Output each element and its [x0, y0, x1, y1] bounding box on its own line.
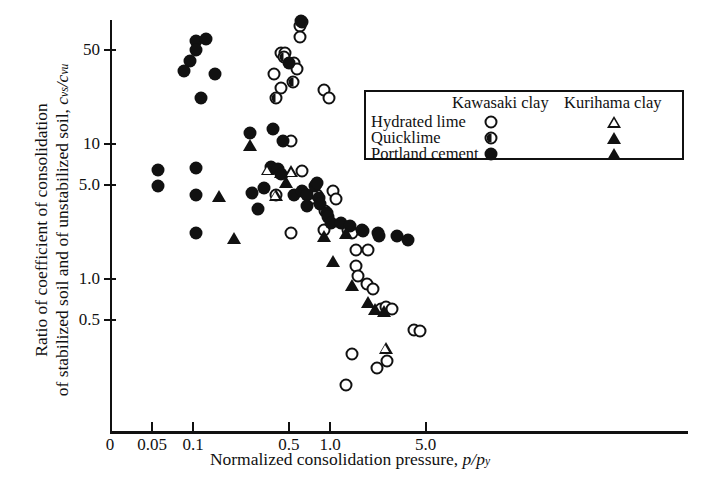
legend-box: Kawasaki clay Kurihama clay Hydrated lim… — [364, 90, 684, 160]
data-point — [268, 68, 281, 81]
data-point — [195, 91, 208, 104]
legend-marker-kawasaki-open-circle-icon — [485, 116, 498, 129]
y-axis-symbol: cvs/cvu — [52, 64, 72, 105]
y-axis-line — [110, 20, 112, 433]
x-tick-label-0.1: 0.1 — [163, 436, 223, 453]
data-point — [243, 127, 256, 140]
y-tick-label-5.0: 5.0 — [40, 176, 100, 193]
scatter-chart-figure: Ratio of coefficient of consolidation of… — [0, 0, 713, 495]
data-point — [266, 122, 279, 135]
x-tick-0.5 — [288, 422, 290, 432]
data-point — [310, 177, 323, 190]
data-point — [190, 162, 203, 175]
x-tick-label-5.0: 5.0 — [396, 436, 456, 453]
data-point — [379, 342, 393, 354]
y-tick-0.5 — [104, 319, 116, 321]
data-point — [190, 43, 203, 56]
data-point — [269, 189, 283, 201]
data-point — [357, 225, 370, 238]
data-point — [380, 355, 393, 368]
legend-header: Kawasaki clay Kurihama clay — [366, 93, 682, 113]
data-point — [246, 187, 259, 200]
data-point — [261, 163, 275, 175]
data-point — [329, 193, 342, 206]
data-point — [373, 229, 386, 242]
data-point — [276, 135, 289, 148]
legend-marker-kurihama-open-triangle-icon — [607, 116, 621, 128]
data-point — [294, 14, 307, 27]
data-point — [151, 164, 164, 177]
y-tick-10 — [104, 143, 116, 145]
data-point — [345, 279, 359, 291]
x-origin-label: 0 — [80, 436, 140, 453]
data-point — [151, 179, 164, 192]
y-tick-5.0 — [104, 184, 116, 186]
data-point — [252, 203, 265, 216]
data-point — [346, 347, 359, 360]
data-point — [301, 199, 314, 212]
x-tick-5.0 — [425, 422, 427, 432]
data-point — [227, 232, 241, 244]
data-points-layer — [0, 0, 713, 48]
data-point — [200, 32, 213, 45]
legend-marker-kurihama-filled-triangle-icon — [607, 148, 621, 160]
data-point — [339, 227, 353, 239]
data-point — [322, 91, 335, 104]
data-point — [339, 378, 352, 391]
data-point — [285, 226, 298, 239]
y-tick-label-1.0: 1.0 — [40, 270, 100, 287]
legend-label: Portland cement — [371, 144, 479, 164]
data-point — [269, 91, 282, 104]
y-tick-label-50: 50 — [40, 41, 100, 58]
legend-marker-kawasaki-filled-circle-icon — [485, 148, 498, 161]
data-point — [317, 230, 331, 242]
data-point — [177, 64, 190, 77]
data-point — [243, 139, 257, 151]
x-tick-0.1 — [192, 422, 194, 432]
y-tick-label-0.5: 0.5 — [40, 311, 100, 328]
y-axis-title-line2: of stabilized soil and of unstabilized s… — [52, 64, 73, 397]
legend-column-kawasaki: Kawasaki clay — [452, 93, 549, 113]
data-point — [190, 226, 203, 239]
data-point — [190, 188, 203, 201]
x-tick-0.05 — [151, 422, 153, 432]
data-point — [212, 190, 226, 202]
legend-row: Portland cement — [371, 146, 681, 162]
data-point — [362, 243, 375, 256]
y-tick-label-10: 10 — [40, 135, 100, 152]
data-point — [282, 56, 295, 69]
x-axis-symbol: p/py — [463, 449, 491, 469]
data-point — [293, 31, 306, 44]
y-axis-title: Ratio of coefficient of consolidation of… — [24, 15, 80, 445]
legend-marker-kurihama-filled-triangle-icon — [607, 132, 621, 144]
data-point — [401, 233, 414, 246]
y-tick-1.0 — [104, 278, 116, 280]
legend-marker-kawasaki-half-circle-icon — [485, 132, 498, 145]
data-point — [377, 305, 391, 317]
data-point — [209, 68, 222, 81]
y-tick-50 — [104, 49, 116, 51]
data-point — [279, 176, 293, 188]
data-point — [414, 325, 427, 338]
x-axis-line — [110, 431, 688, 434]
x-tick-1.0 — [329, 422, 331, 432]
data-point — [326, 255, 340, 267]
x-tick-label-1.0: 1.0 — [300, 436, 360, 453]
data-point — [366, 282, 379, 295]
data-point — [350, 243, 363, 256]
data-point — [287, 75, 300, 88]
legend-column-kurihama: Kurihama clay — [564, 93, 662, 113]
